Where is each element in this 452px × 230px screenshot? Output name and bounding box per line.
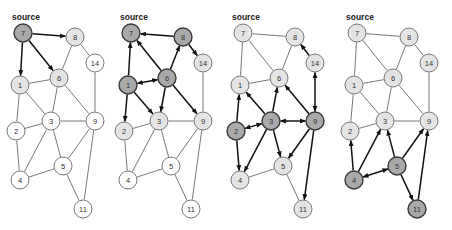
node-label: 1 <box>352 81 356 90</box>
node-label: 14 <box>199 59 207 68</box>
node-4: 4 <box>11 171 29 189</box>
node-3: 3 <box>42 112 60 130</box>
source-label: source <box>120 12 148 22</box>
edge-5-4 <box>249 169 274 177</box>
node-label: 9 <box>313 117 317 126</box>
node-label: 3 <box>157 117 161 126</box>
node-11: 11 <box>408 200 426 218</box>
node-1: 1 <box>11 76 29 94</box>
node-3: 3 <box>262 112 280 130</box>
edge-5-11 <box>175 175 187 201</box>
node-6: 6 <box>158 69 176 87</box>
edge-5-11 <box>401 175 413 201</box>
edge-2-4 <box>125 140 127 170</box>
node-1: 1 <box>231 76 249 94</box>
graph-panel-3: source1234567891114 <box>227 12 324 218</box>
edge-9-6 <box>285 85 309 113</box>
node-2: 2 <box>341 122 359 140</box>
node-11: 11 <box>74 200 92 218</box>
node-label: 6 <box>277 74 281 83</box>
graph-panel-2: source1234567891114 <box>115 12 212 218</box>
node-5: 5 <box>274 157 292 175</box>
node-1: 1 <box>345 76 363 94</box>
node-label: 2 <box>348 127 352 136</box>
node-label: 2 <box>122 127 126 136</box>
node-label: 3 <box>383 117 387 126</box>
node-label: 5 <box>281 162 285 171</box>
node-2: 2 <box>115 122 133 140</box>
edge-6-7 <box>137 40 161 70</box>
node-5: 5 <box>162 157 180 175</box>
edge-7-8 <box>32 34 65 37</box>
node-label: 11 <box>187 205 195 214</box>
edge-7-6 <box>363 40 387 70</box>
node-label: 1 <box>18 81 22 90</box>
edge-8-6 <box>62 46 71 69</box>
edge-1-3 <box>360 92 379 114</box>
node-label: 3 <box>49 117 53 126</box>
edge-7-1 <box>355 42 357 75</box>
node-8: 8 <box>400 28 418 46</box>
edge-3-4 <box>24 129 46 171</box>
edge-7-8 <box>366 34 399 37</box>
edge-8-14 <box>415 45 423 56</box>
node-14: 14 <box>86 54 104 72</box>
edge-2-3 <box>25 124 42 129</box>
node-7: 7 <box>14 24 32 42</box>
source-label: source <box>12 12 40 22</box>
node-label: 4 <box>18 176 22 185</box>
edge-1-3 <box>26 92 45 114</box>
edge-6-1 <box>137 80 157 84</box>
node-label: 4 <box>238 176 242 185</box>
edge-1-7 <box>129 42 131 75</box>
edge-3-4 <box>132 129 154 171</box>
node-4: 4 <box>119 171 137 189</box>
edge-3-2 <box>245 124 262 129</box>
edge-4-2 <box>351 140 353 170</box>
node-7: 7 <box>234 24 252 42</box>
node-label: 4 <box>126 176 130 185</box>
node-label: 5 <box>61 162 65 171</box>
edge-9-5 <box>177 129 198 159</box>
node-8: 8 <box>174 28 192 46</box>
node-label: 5 <box>169 162 173 171</box>
node-label: 11 <box>79 205 87 214</box>
edge-6-9 <box>399 85 423 113</box>
node-label: 11 <box>299 205 307 214</box>
node-label: 8 <box>181 33 185 42</box>
node-14: 14 <box>420 54 438 72</box>
node-label: 2 <box>14 127 18 136</box>
node-14: 14 <box>306 54 324 72</box>
edge-1-2 <box>17 94 19 121</box>
edge-5-4 <box>29 169 54 177</box>
edge-5-11 <box>67 175 79 201</box>
edge-1-6 <box>249 80 269 84</box>
node-label: 6 <box>165 74 169 83</box>
edge-8-14 <box>189 45 197 56</box>
edge-3-5 <box>53 130 60 157</box>
node-2: 2 <box>7 122 25 140</box>
edge-6-3 <box>387 87 392 111</box>
node-6: 6 <box>384 69 402 87</box>
edge-5-9 <box>403 129 424 159</box>
node-label: 7 <box>355 29 359 38</box>
node-label: 5 <box>395 162 399 171</box>
node-5: 5 <box>388 157 406 175</box>
node-7: 7 <box>348 24 366 42</box>
edge-2-4 <box>237 140 239 170</box>
node-label: 8 <box>293 33 297 42</box>
edge-1-6 <box>363 80 383 84</box>
node-label: 6 <box>57 74 61 83</box>
node-11: 11 <box>294 200 312 218</box>
node-1: 1 <box>119 76 137 94</box>
edge-1-2 <box>125 94 127 121</box>
edge-9-5 <box>69 129 90 159</box>
node-label: 8 <box>73 33 77 42</box>
edge-3-5 <box>273 130 280 157</box>
edge-6-3 <box>53 87 58 111</box>
edge-3-1 <box>246 92 265 114</box>
edge-5-3 <box>387 130 394 157</box>
node-label: 14 <box>425 59 433 68</box>
edge-1-3 <box>134 92 153 114</box>
node-4: 4 <box>231 171 249 189</box>
